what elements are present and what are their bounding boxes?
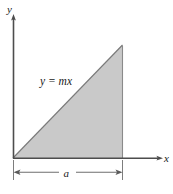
curve-equation-label: y = mx (39, 75, 73, 88)
x-axis-label: x (163, 152, 169, 164)
figure-container: y x y = mx a (0, 0, 173, 194)
dimension-label-a: a (64, 167, 70, 179)
triangle-region-figure: y x y = mx a (0, 0, 173, 194)
y-axis-label: y (6, 3, 12, 15)
